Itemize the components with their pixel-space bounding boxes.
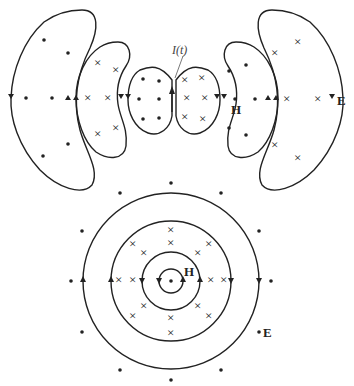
bottom-e-label: E	[263, 325, 272, 340]
svg-text:×: ×	[84, 90, 91, 105]
svg-text:×: ×	[183, 90, 190, 105]
top-panel: I(t) × × × × ×	[8, 10, 346, 190]
svg-text:×: ×	[194, 298, 201, 313]
svg-text:×: ×	[294, 34, 301, 49]
svg-text:×: ×	[112, 62, 119, 77]
svg-text:×: ×	[140, 245, 147, 260]
svg-text:×: ×	[314, 91, 321, 106]
dipole-field-diagram: I(t) × × × × ×	[0, 0, 354, 386]
svg-text:×: ×	[205, 308, 212, 323]
svg-text:×: ×	[94, 55, 101, 70]
current-label: I(t)	[171, 43, 187, 57]
svg-text:×: ×	[129, 236, 136, 251]
svg-text:×: ×	[129, 272, 136, 287]
svg-text:×: ×	[129, 308, 136, 323]
svg-text:×: ×	[271, 137, 278, 152]
svg-text:×: ×	[104, 90, 111, 105]
svg-text:×: ×	[112, 120, 119, 135]
svg-text:×: ×	[283, 91, 290, 106]
center-left-lobe	[128, 67, 172, 134]
svg-text:×: ×	[207, 272, 214, 287]
svg-text:×: ×	[94, 126, 101, 141]
top-h-label: H	[231, 102, 241, 117]
svg-text:×: ×	[201, 90, 208, 105]
svg-text:×: ×	[181, 72, 188, 87]
svg-text:×: ×	[194, 245, 201, 260]
svg-text:×: ×	[181, 109, 188, 124]
bottom-h-label: H	[184, 264, 194, 279]
svg-text:×: ×	[205, 236, 212, 251]
svg-text:×: ×	[220, 272, 227, 287]
svg-text:×: ×	[140, 298, 147, 313]
svg-text:×: ×	[294, 150, 301, 165]
center-dot	[169, 279, 173, 283]
svg-text:×: ×	[167, 235, 174, 250]
dots-outer-left	[24, 38, 70, 158]
svg-text:×: ×	[167, 310, 174, 325]
crosses-inner-left: × × × × × ×	[84, 55, 119, 141]
svg-text:×: ×	[271, 45, 278, 60]
dots-center-left	[137, 77, 161, 121]
dots-inner-right	[227, 63, 257, 137]
svg-text:×: ×	[199, 111, 206, 126]
svg-text:×: ×	[115, 272, 122, 287]
current-arrowhead	[169, 86, 175, 94]
top-e-label: E	[337, 93, 346, 108]
bottom-panel: H × × × × × × × × × × × × × × × ×	[69, 181, 273, 382]
svg-text:×: ×	[198, 70, 205, 85]
svg-text:×: ×	[167, 325, 174, 340]
crosses-center-right: × × × × × ×	[181, 70, 208, 126]
